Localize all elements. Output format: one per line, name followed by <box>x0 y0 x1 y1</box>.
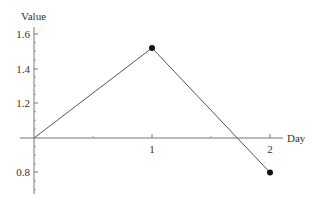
y-tick-label: 1.6 <box>16 28 30 40</box>
data-series <box>34 45 273 176</box>
x-axis-label: Day <box>287 132 306 144</box>
y-tick-label: 1.2 <box>16 97 30 109</box>
data-point-marker <box>267 170 273 176</box>
x-tick-label: 1 <box>149 143 155 155</box>
y-tick-label: 0.8 <box>16 166 30 178</box>
line-chart: 1.6 1.4 1.2 0.8 Value 1 2 Day <box>0 0 321 203</box>
x-tick-label: 2 <box>267 143 273 155</box>
x-axis: 1 2 Day <box>20 132 306 155</box>
y-tick-label: 1.4 <box>16 63 30 75</box>
y-axis-label: Value <box>21 10 46 22</box>
y-axis: 1.6 1.4 1.2 0.8 Value <box>16 10 46 194</box>
data-point-marker <box>149 45 155 51</box>
